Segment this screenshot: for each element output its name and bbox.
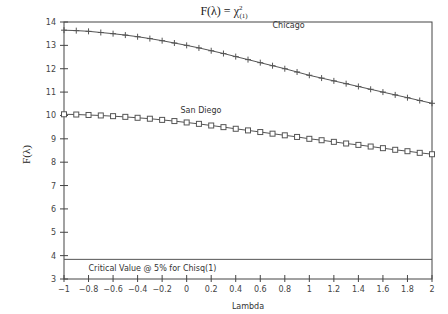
data-point	[307, 136, 312, 141]
data-point	[171, 40, 177, 46]
data-point	[61, 27, 67, 33]
data-point	[355, 83, 361, 89]
data-point	[344, 141, 349, 146]
data-point	[319, 138, 324, 143]
data-point	[159, 38, 165, 44]
data-point	[282, 66, 288, 72]
series-san-diego	[62, 112, 435, 157]
data-point	[184, 120, 189, 125]
data-point	[430, 152, 435, 157]
x-tick-label: −1	[58, 285, 70, 294]
x-tick-label: 0.8	[278, 285, 291, 294]
chart: F(λ) = χ2(1) 34567891011121314−1−0.8−0.6…	[0, 0, 448, 314]
data-point	[282, 133, 287, 138]
x-tick-label: 0	[184, 285, 189, 294]
data-point	[405, 149, 410, 154]
x-tick-label: −0.6	[103, 285, 122, 294]
data-point	[86, 112, 91, 117]
y-tick-label: 12	[46, 65, 56, 74]
data-point	[196, 121, 201, 126]
data-point	[172, 119, 177, 124]
data-point	[417, 98, 423, 104]
data-point	[331, 78, 337, 84]
x-tick-label: 1.2	[327, 285, 340, 294]
x-tick-label: −0.2	[152, 285, 171, 294]
data-point	[356, 142, 361, 147]
data-point	[429, 100, 435, 106]
data-point	[86, 28, 92, 34]
data-point	[73, 28, 79, 34]
data-point	[258, 130, 263, 135]
x-tick-label: −0.4	[128, 285, 147, 294]
x-tick-label: 1.4	[352, 285, 365, 294]
data-point	[380, 89, 386, 95]
x-tick-label: 1.8	[401, 285, 414, 294]
data-point	[233, 54, 239, 60]
data-point	[135, 34, 141, 40]
data-point	[294, 69, 300, 75]
critical-value-label: Critical Value @ 5% for Chisq(1)	[89, 264, 217, 273]
x-tick-label: −0.8	[79, 285, 98, 294]
x-tick-label: 1	[307, 285, 312, 294]
data-point	[98, 30, 104, 36]
y-tick-label: 14	[46, 18, 56, 27]
data-point	[270, 63, 276, 69]
data-point	[147, 36, 153, 42]
data-point	[122, 32, 128, 38]
data-point	[221, 125, 226, 130]
data-point	[208, 48, 214, 54]
x-axis-label: Lambda	[232, 302, 264, 311]
y-axis-label: F(λ)	[20, 145, 33, 164]
data-point	[246, 128, 251, 133]
series-label: Chicago	[273, 21, 305, 30]
y-tick-label: 6	[51, 205, 56, 214]
x-tick-label: 0.4	[229, 285, 242, 294]
data-point	[270, 131, 275, 136]
data-point	[245, 57, 251, 63]
data-point	[196, 45, 202, 51]
data-point	[417, 150, 422, 155]
title-text: F(λ) = χ2(1)	[200, 4, 248, 20]
data-point	[393, 147, 398, 152]
data-point	[380, 146, 385, 151]
chart-title: F(λ) = χ2(1)	[200, 4, 248, 20]
data-point	[306, 72, 312, 78]
series-label: San Diego	[181, 106, 222, 115]
data-point	[404, 95, 410, 101]
y-tick-label: 13	[46, 41, 56, 50]
data-point	[123, 114, 128, 119]
x-tick-label: 1.6	[377, 285, 390, 294]
y-tick-label: 5	[51, 228, 56, 237]
data-point	[110, 31, 116, 37]
y-tick-label: 9	[51, 135, 56, 144]
data-point	[331, 139, 336, 144]
data-point	[295, 134, 300, 139]
data-point	[233, 126, 238, 131]
x-tick-label: 0.2	[205, 285, 218, 294]
data-point	[368, 86, 374, 92]
y-tick-label: 3	[51, 275, 56, 284]
data-point	[62, 112, 67, 117]
y-tick-label: 11	[46, 88, 56, 97]
data-point	[74, 112, 79, 117]
y-tick-label: 8	[51, 158, 56, 167]
axes: 34567891011121314−1−0.8−0.6−0.4−0.200.20…	[20, 18, 435, 311]
data-point	[147, 116, 152, 121]
data-point	[111, 114, 116, 119]
data-point	[392, 92, 398, 98]
y-tick-label: 7	[51, 182, 56, 191]
data-point	[184, 42, 190, 48]
data-point	[257, 60, 263, 66]
data-point	[220, 51, 226, 57]
series-chicago	[61, 27, 435, 106]
plot-series	[61, 27, 435, 157]
x-tick-label: 2	[429, 285, 434, 294]
data-point	[160, 117, 165, 122]
y-tick-label: 10	[46, 111, 56, 120]
data-point	[98, 113, 103, 118]
data-point	[343, 81, 349, 87]
data-point	[135, 115, 140, 120]
data-point	[368, 144, 373, 149]
data-point	[209, 123, 214, 128]
y-tick-label: 4	[51, 252, 56, 261]
